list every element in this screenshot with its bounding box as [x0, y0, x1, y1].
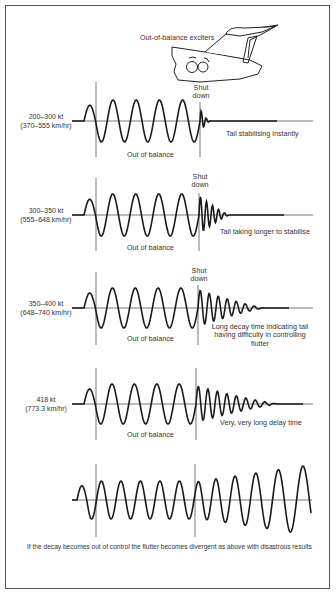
note-line: flutter [210, 340, 310, 348]
note-panel-3: Long decay time indicating tail having d… [210, 323, 310, 348]
shutdown-line2: down [188, 275, 210, 283]
shutdown-line2: down [189, 181, 211, 189]
shutdown-line2: down [190, 92, 212, 100]
note-panel-4: Very, very long delay time [220, 419, 302, 427]
exciters-label: Out-of-balance exciters [140, 34, 214, 42]
reference-lines [72, 82, 313, 537]
out-of-balance-label-panel-3: Out of balance [127, 335, 174, 343]
speed-kt: 418 kt [6, 396, 86, 405]
note-panel-2: Tail taking longer to stabilise [220, 228, 310, 236]
speed-label-panel-4: 418 kt (773.3 km/hr) [6, 396, 86, 413]
shutdown-label-panel-3: Shut down [188, 267, 210, 284]
out-of-balance-label-panel-2: Out of balance [127, 244, 174, 252]
shutdown-label-panel-2: Shut down [189, 173, 211, 190]
shutdown-label-panel-1: Shut down [190, 84, 212, 101]
speed-kmh: (555–648 km/hr) [6, 216, 86, 225]
waveform-panel-5 [72, 466, 311, 532]
speed-kmh: (370–555 km/hr) [6, 122, 86, 131]
caption: If the decay becomes out of control the … [27, 543, 312, 551]
waveforms [72, 100, 311, 532]
out-of-balance-label-panel-1: Out of balance [127, 151, 174, 159]
flutter-diagram-art [0, 0, 336, 595]
speed-label-panel-2: 300–350 kt (555–648 km/hr) [6, 207, 86, 224]
note-panel-1: Tail stabilising instantly [226, 130, 299, 138]
speed-label-panel-3: 350–400 kt (648–740 km/hr) [6, 300, 86, 317]
speed-kt: 300–350 kt [6, 207, 86, 216]
speed-kt: 350–400 kt [6, 300, 86, 309]
speed-label-panel-1: 200–300 kt (370–555 km/hr) [6, 113, 86, 130]
speed-kt: 200–300 kt [6, 113, 86, 122]
out-of-balance-label-panel-4: Out of balance [127, 431, 174, 439]
speed-kmh: (773.3 km/hr) [6, 405, 86, 414]
speed-kmh: (648–740 km/hr) [6, 309, 86, 318]
